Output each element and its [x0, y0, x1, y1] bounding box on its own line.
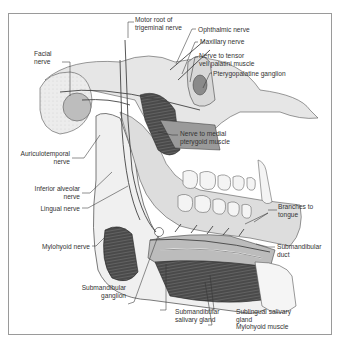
label-submandibular-salivary-gland: Submandibular salivary gland: [175, 308, 219, 323]
label-line: trigeminal nerve: [135, 24, 182, 32]
label-mylohyoid-muscle: Mylohyoid muscle: [236, 323, 288, 331]
label-inferior-alveolar-nerve: Inferior alveolar nerve: [20, 185, 80, 200]
label-line: tongue: [278, 211, 313, 219]
label-line: Submandibular: [66, 284, 126, 292]
mylohyoid-muscle-shape: [155, 261, 262, 303]
label-mylohyoid-nerve: Mylohyoid nerve: [20, 243, 90, 251]
label-line: nerve: [20, 193, 80, 201]
label-line: Submandibular: [277, 243, 321, 251]
label-branches-to-tongue: Branches to tongue: [278, 203, 313, 218]
label-line: nerve: [34, 58, 52, 66]
label-line: pterygoid muscle: [180, 138, 230, 146]
ear-canal: [63, 93, 91, 121]
label-line: nerve: [12, 158, 70, 166]
label-auriculotemporal-nerve: Auriculotemporal nerve: [12, 150, 70, 165]
label-submandibular-ganglion: Submandibular ganglion: [66, 284, 126, 299]
label-nerve-tensor-veli-palatini: Nerve to tensor veli palatini muscle: [199, 52, 254, 67]
label-line: Nerve to tensor: [199, 52, 254, 60]
label-line: salivary gland: [175, 316, 219, 324]
label-pterygopalatine-ganglion: Pterygopalatine ganglion: [213, 70, 286, 78]
label-line: Auriculotemporal: [12, 150, 70, 158]
label-line: Branches to: [278, 203, 313, 211]
label-line: Sublingual salivary: [236, 308, 291, 316]
label-line: Nerve to medial: [180, 130, 230, 138]
label-motor-root: Motor root of trigeminal nerve: [135, 16, 182, 31]
label-line: ganglion: [66, 292, 126, 300]
label-line: Motor root of: [135, 16, 182, 24]
label-sublingual-salivary-gland: Sublingual salivary gland: [236, 308, 291, 323]
label-line: veli palatini muscle: [199, 60, 254, 68]
label-maxillary-nerve: Maxillary nerve: [200, 38, 244, 46]
label-nerve-medial-pterygoid: Nerve to medial pterygoid muscle: [180, 130, 230, 145]
label-submandibular-duct: Submandibular duct: [277, 243, 321, 258]
label-line: Inferior alveolar: [20, 185, 80, 193]
label-line: Submandibular: [175, 308, 219, 316]
label-facial-nerve: Facial nerve: [34, 50, 52, 65]
label-lingual-nerve: Lingual nerve: [20, 205, 80, 213]
label-line: Facial: [34, 50, 52, 58]
label-line: duct: [277, 251, 321, 259]
label-ophthalmic-nerve: Ophthalmic nerve: [198, 26, 250, 34]
